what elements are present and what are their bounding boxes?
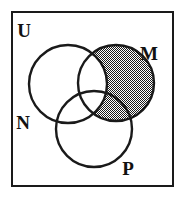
set-label-p: P [122, 158, 134, 179]
set-label-n: N [16, 112, 30, 133]
venn-diagram-container: U N M P [0, 0, 185, 199]
venn-diagram-canvas: U N M P [0, 0, 185, 199]
universal-set-label: U [17, 20, 31, 41]
set-label-m: M [140, 43, 158, 64]
